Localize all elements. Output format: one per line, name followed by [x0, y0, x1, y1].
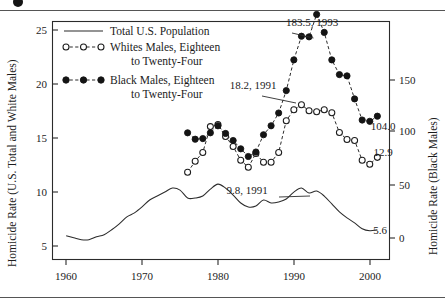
- x-ticks: 1960 1970 1980 1990 2000: [55, 260, 382, 283]
- series-total-us-population: [66, 184, 377, 240]
- y-right-axis-label: Homicide Rate (Black Males): [427, 117, 440, 255]
- leader-total-peak: [279, 196, 310, 197]
- annotation-labels: 183.5, 1993 18.2, 1991 9.8, 1991 104.0 1…: [226, 16, 396, 236]
- series-white-males-18-24: [185, 102, 381, 175]
- data-point: [230, 137, 236, 143]
- data-point: [321, 29, 327, 35]
- y-left-tick-20: 20: [36, 78, 48, 90]
- data-point: [200, 135, 206, 141]
- data-point: [185, 130, 191, 136]
- homicide-rate-chart: 25 20 15 10 5 150 100 50 0 1960 1970 19: [0, 0, 445, 308]
- x-tick-1980: 1980: [207, 270, 230, 282]
- legend-label-black-2: to Twenty-Four: [131, 88, 203, 101]
- y-right-ticks: 150 100 50 0: [390, 74, 417, 244]
- data-point: [329, 57, 335, 63]
- data-point: [215, 123, 221, 129]
- data-point: [314, 109, 320, 115]
- data-point: [192, 136, 198, 142]
- legend-label-white-1: Whites Males, Eighteen: [110, 41, 220, 54]
- data-point: [276, 110, 282, 116]
- y-left-tick-25: 25: [36, 24, 48, 36]
- data-point: [359, 157, 365, 163]
- annotation-total-peak: 9.8, 1991: [226, 184, 267, 196]
- data-point: [260, 132, 266, 138]
- data-point: [306, 108, 312, 114]
- annotation-black-end: 104.0: [371, 120, 396, 132]
- data-point: [351, 96, 357, 102]
- leader-white-peak: [262, 96, 296, 103]
- data-point: [352, 138, 358, 144]
- data-point: [283, 118, 289, 124]
- data-point: [207, 124, 213, 130]
- plot-frame: [53, 22, 390, 260]
- data-point: [207, 130, 213, 136]
- data-point: [336, 72, 342, 78]
- data-point: [192, 158, 198, 164]
- data-point: [298, 33, 304, 39]
- y-left-tick-5: 5: [42, 240, 48, 252]
- y-right-tick-0: 0: [399, 232, 405, 244]
- data-point: [238, 157, 244, 163]
- legend: Total U.S. Population Whites Males, Eigh…: [63, 25, 221, 101]
- data-point: [200, 149, 206, 155]
- series-line: [188, 14, 378, 156]
- data-point: [298, 102, 304, 108]
- data-point: [344, 137, 350, 143]
- data-point: [268, 159, 274, 165]
- figure-container: 25 20 15 10 5 150 100 50 0 1960 1970 19: [0, 0, 445, 308]
- y-left-axis-label: Homicide Rate (U.S. Total and White Male…: [6, 59, 19, 267]
- y-left-tick-15: 15: [36, 132, 48, 144]
- data-point: [238, 146, 244, 152]
- data-point: [261, 159, 267, 165]
- annotation-white-peak: 18.2, 1991: [230, 79, 277, 91]
- annotation-leaders: [262, 33, 314, 197]
- data-point: [336, 130, 342, 136]
- data-point: [185, 169, 191, 175]
- x-tick-1990: 1990: [283, 270, 306, 282]
- data-point: [245, 164, 251, 170]
- x-tick-1960: 1960: [55, 270, 78, 282]
- data-point: [344, 73, 350, 79]
- y-left-ticks: 25 20 15 10 5: [36, 24, 58, 252]
- data-point: [245, 153, 251, 159]
- legend-label-black-1: Black Males, Eighteen: [110, 74, 215, 87]
- data-point: [222, 130, 228, 136]
- annotation-white-end: 12.9: [373, 146, 393, 158]
- data-point: [291, 107, 297, 113]
- annotation-total-end: 5.6: [373, 224, 387, 236]
- partial-black-dot-icon: [13, 0, 23, 7]
- x-tick-2000: 2000: [359, 270, 382, 282]
- legend-label-total-1: Total U.S. Population: [110, 25, 210, 38]
- data-point: [367, 161, 373, 167]
- annotation-black-peak: 183.5, 1993: [286, 16, 339, 28]
- data-point: [321, 107, 327, 113]
- x-tick-1970: 1970: [131, 270, 154, 282]
- series-line: [66, 184, 377, 240]
- data-point: [374, 113, 380, 119]
- data-point: [276, 149, 282, 155]
- y-left-tick-10: 10: [36, 186, 48, 198]
- data-point: [253, 149, 259, 155]
- y-right-tick-50: 50: [399, 179, 411, 191]
- legend-label-white-2: to Twenty-Four: [131, 55, 203, 68]
- data-point: [359, 117, 365, 123]
- data-point: [268, 123, 274, 129]
- data-point: [230, 143, 236, 149]
- legend-marker-white-series: [63, 44, 104, 50]
- legend-marker-black-series: [63, 77, 104, 83]
- y-right-tick-100: 100: [399, 125, 416, 137]
- data-point: [283, 88, 289, 94]
- data-point: [329, 110, 335, 116]
- y-right-tick-150: 150: [399, 74, 416, 86]
- data-point: [291, 57, 297, 63]
